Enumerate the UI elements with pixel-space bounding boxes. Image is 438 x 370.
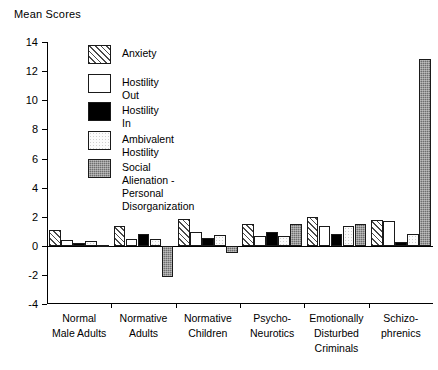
legend-swatch-black-icon (88, 102, 111, 121)
legend-label: Social Alienation - Personal Disorganiza… (122, 158, 194, 213)
bar (202, 238, 214, 246)
y-tick-label: -2 (4, 269, 38, 281)
bar (49, 230, 61, 246)
bar (61, 240, 73, 246)
bar (343, 226, 355, 246)
y-tick-mark (42, 42, 47, 43)
bar (138, 234, 150, 246)
y-tick-mark (42, 71, 47, 72)
y-tick-label: 10 (4, 94, 38, 106)
chart-title: Mean Scores (14, 8, 81, 20)
y-tick-mark (42, 100, 47, 101)
bar (73, 243, 85, 246)
legend-swatch-white-icon (88, 74, 111, 93)
bar (331, 234, 343, 246)
bar (178, 219, 190, 246)
y-tick-label: 0 (4, 240, 38, 252)
bar (214, 235, 226, 246)
y-tick-mark (42, 129, 47, 130)
y-tick-label: 8 (4, 123, 38, 135)
y-tick-label: 6 (4, 153, 38, 165)
bar (242, 224, 254, 246)
y-tick-mark (42, 246, 47, 247)
legend-swatch-light-dotted-icon (88, 131, 111, 150)
category-label: Schizo- phrenics (369, 311, 433, 341)
y-tick-label: 14 (4, 36, 38, 48)
bar (395, 242, 407, 246)
legend-swatch-dark-textured-icon (88, 159, 111, 178)
y-tick-mark (42, 217, 47, 218)
legend-label: Hostility In (122, 101, 159, 130)
category-label: Normative Adults (111, 311, 175, 341)
y-tick-mark (42, 188, 47, 189)
bar (383, 221, 395, 247)
x-tick-mark (304, 303, 305, 308)
y-tick-label: 2 (4, 211, 38, 223)
bar (226, 246, 238, 253)
bar (97, 245, 109, 247)
bar (266, 232, 278, 246)
bar (319, 226, 331, 246)
category-label: Psycho- Neurotics (240, 311, 304, 341)
x-tick-mark (240, 303, 241, 308)
y-tick-mark (42, 275, 47, 276)
category-label: Normal Male Adults (47, 311, 111, 341)
x-tick-mark (369, 303, 370, 308)
bar (307, 217, 319, 246)
y-tick-label: 12 (4, 65, 38, 77)
y-axis-line (47, 42, 48, 303)
bar (278, 236, 290, 246)
category-label: Normative Children (176, 311, 240, 341)
bar (85, 241, 97, 246)
legend-label: Hostility Out (122, 73, 159, 102)
y-tick-mark (42, 304, 47, 305)
bar (126, 239, 138, 246)
legend-label: Anxiety (122, 44, 156, 60)
bar (371, 220, 383, 246)
bar (355, 224, 367, 246)
bar (114, 226, 126, 246)
y-tick-mark (42, 159, 47, 160)
bar (419, 59, 431, 246)
x-tick-mark (111, 303, 112, 308)
bar (190, 232, 202, 246)
y-tick-label: 4 (4, 182, 38, 194)
bar (290, 224, 302, 246)
legend-label: Ambivalent Hostility (122, 130, 174, 159)
bar (407, 234, 419, 246)
bar (254, 236, 266, 246)
y-tick-label: -4 (4, 298, 38, 310)
x-tick-mark (176, 303, 177, 308)
bar (150, 239, 162, 246)
chart-container: Mean Scores 14121086420-2-4 Normal Male … (0, 0, 438, 370)
bar (162, 246, 174, 277)
legend-swatch-diagonal-hatch-icon (88, 45, 111, 64)
category-label: Emotionally Disturbed Criminals (304, 311, 368, 356)
